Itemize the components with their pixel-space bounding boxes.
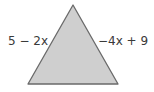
triangle-diagram: 5 − 2x −4x + 9 [0,0,154,92]
left-side-label: 5 − 2x [8,34,48,48]
right-side-label: −4x + 9 [98,34,148,48]
